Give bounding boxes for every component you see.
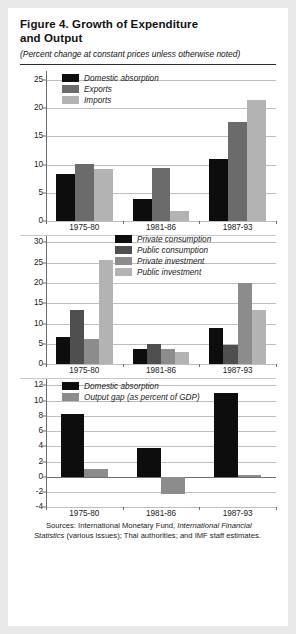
- x-axis-tick-label: 1975-80: [69, 366, 99, 375]
- legend-label: Output gap (as percent of GDP): [84, 393, 200, 402]
- legend-swatch: [115, 257, 132, 265]
- x-axis-tick-mark: [46, 507, 47, 510]
- bar: [99, 260, 113, 364]
- x-axis-tick-label: 1981-86: [146, 366, 176, 375]
- legend: Domestic absorptionOutput gap (as percen…: [62, 381, 200, 403]
- x-axis-tick-mark: [46, 221, 47, 224]
- legend-swatch: [62, 74, 79, 82]
- x-axis-tick-label: 1987-93: [223, 509, 253, 518]
- x-axis-tick-mark: [199, 221, 200, 224]
- legend-item: Private consumption: [115, 234, 211, 244]
- legend-swatch: [115, 268, 132, 276]
- bar: [75, 164, 94, 222]
- bar: [84, 469, 108, 477]
- legend-swatch: [62, 96, 79, 104]
- legend-label: Imports: [84, 96, 111, 105]
- chart-panel-3: -4-2024681012Domestic absorptionOutput g…: [20, 379, 276, 521]
- x-axis-labels: 1975-801981-861987-93: [46, 507, 276, 521]
- legend-swatch: [62, 393, 79, 401]
- x-axis-tick-mark: [123, 364, 124, 367]
- legend-item: Domestic absorption: [62, 73, 159, 83]
- x-axis-tick-mark: [123, 507, 124, 510]
- bar: [175, 352, 189, 364]
- legend-label: Domestic absorption: [84, 382, 159, 391]
- x-axis-labels: 1975-801981-861987-93: [46, 221, 276, 235]
- x-axis-tick-mark: [276, 507, 277, 510]
- legend-item: Exports: [62, 84, 159, 94]
- bar: [56, 174, 75, 221]
- y-axis-line: [46, 71, 47, 221]
- legend: Private consumptionPublic consumptionPri…: [115, 234, 211, 278]
- plot-area: 0510152025Domestic absorptionExportsImpo…: [46, 71, 276, 221]
- legend-label: Public investment: [137, 268, 201, 277]
- x-axis-tick-label: 1987-93: [223, 223, 253, 232]
- sources-prefix: Sources: International Monetary Fund,: [46, 521, 177, 530]
- x-axis-tick-mark: [276, 221, 277, 224]
- figure-title-line-1: Figure 4. Growth of Expenditure: [20, 18, 276, 32]
- bar: [247, 100, 266, 222]
- bar: [152, 168, 171, 222]
- x-axis-tick-label: 1981-86: [146, 509, 176, 518]
- legend-label: Domestic absorption: [84, 74, 159, 83]
- bar: [137, 448, 161, 477]
- bar: [161, 477, 185, 495]
- bar: [214, 393, 238, 477]
- x-axis-labels: 1975-801981-861987-93: [46, 364, 276, 378]
- bar: [238, 283, 252, 364]
- bar: [56, 337, 70, 365]
- legend-item: Public consumption: [115, 245, 211, 255]
- x-axis-tick-mark: [46, 364, 47, 367]
- x-axis-tick-mark: [199, 364, 200, 367]
- y-axis-line: [46, 379, 47, 507]
- bar: [223, 345, 237, 365]
- bar: [147, 344, 161, 364]
- bar: [94, 169, 113, 221]
- y-axis-line: [46, 236, 47, 364]
- figure-card: Figure 4. Growth of Expenditure and Outp…: [8, 8, 288, 626]
- bar: [252, 310, 266, 364]
- legend-label: Private investment: [137, 257, 204, 266]
- bar: [133, 349, 147, 364]
- legend-item: Domestic absorption: [62, 381, 200, 391]
- figure-subtitle: (Percent change at constant prices unles…: [20, 49, 276, 59]
- bar: [228, 122, 247, 221]
- legend-item: Output gap (as percent of GDP): [62, 392, 200, 402]
- sources-note: Sources: International Monetary Fund, In…: [20, 521, 276, 540]
- legend-swatch: [62, 382, 79, 390]
- x-axis-tick-label: 1981-86: [146, 223, 176, 232]
- legend-item: Public investment: [115, 267, 211, 277]
- legend-label: Private consumption: [137, 235, 211, 244]
- x-axis-tick-mark: [276, 364, 277, 367]
- sources-suffix: (various issues); Thai authorities; and …: [64, 531, 260, 540]
- x-axis-tick-label: 1987-93: [223, 366, 253, 375]
- legend-item: Imports: [62, 95, 159, 105]
- x-axis-tick-mark: [199, 507, 200, 510]
- bar: [209, 159, 228, 221]
- bar: [238, 475, 262, 477]
- legend-swatch: [115, 246, 132, 254]
- x-axis-tick-label: 1975-80: [69, 223, 99, 232]
- chart-panel-1: 0510152025Domestic absorptionExportsImpo…: [20, 71, 276, 236]
- chart-panels: 0510152025Domestic absorptionExportsImpo…: [20, 71, 276, 521]
- figure-title: Figure 4. Growth of Expenditure and Outp…: [20, 18, 276, 45]
- bar: [133, 199, 152, 221]
- legend-label: Public consumption: [137, 246, 208, 255]
- legend-label: Exports: [84, 85, 112, 94]
- legend-swatch: [115, 235, 132, 243]
- plot-area: -4-2024681012Domestic absorptionOutput g…: [46, 379, 276, 507]
- chart-panel-2: 051015202530Private consumptionPublic co…: [20, 236, 276, 379]
- x-axis-tick-label: 1975-80: [69, 509, 99, 518]
- bar: [70, 310, 84, 364]
- gridline: [46, 108, 276, 109]
- title-divider: [20, 64, 276, 65]
- figure-title-line-2: and Output: [20, 32, 276, 46]
- legend: Domestic absorptionExportsImports: [62, 73, 159, 106]
- bar: [170, 211, 189, 221]
- x-axis-tick-mark: [123, 221, 124, 224]
- legend-swatch: [62, 85, 79, 93]
- plot-area: 051015202530Private consumptionPublic co…: [46, 236, 276, 364]
- legend-item: Private investment: [115, 256, 211, 266]
- bar: [84, 339, 98, 364]
- bar: [161, 349, 175, 364]
- bar: [61, 414, 85, 477]
